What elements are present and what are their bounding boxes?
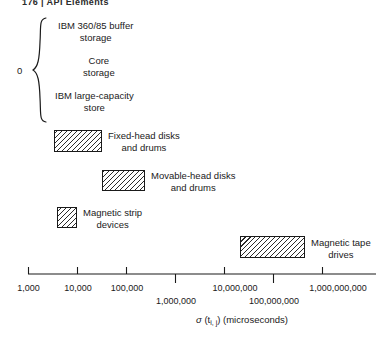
group-label-line1: IBM 360/85 buffer <box>58 20 133 31</box>
bar-label-line2: drives <box>311 249 371 261</box>
grouping-brace-icon <box>32 17 48 123</box>
group-label-core-storage: Core storage <box>83 55 115 79</box>
x-tick-label-100000: 100,000 <box>95 283 159 293</box>
x-tick-label-1000000000: 1,000,000,000 <box>290 283 386 293</box>
bar-magnetic-tape-drives <box>240 236 305 258</box>
x-axis-title: σ (ti, j) (microseconds) <box>196 314 288 326</box>
group-label-line2: storage <box>80 32 112 43</box>
x-tick-label-10000000: 10,000,000 <box>198 283 272 293</box>
bar-label-line1: Magnetic strip <box>83 207 142 218</box>
bar-label-line2: devices <box>83 219 142 231</box>
group-label-line2: store <box>84 102 105 113</box>
group-label-ibm-lcs: IBM large-capacity store <box>55 90 134 114</box>
bar-label-fixed-head-disks: Fixed-head disks and drums <box>108 130 180 154</box>
group-label-line1: Core <box>89 55 110 66</box>
bar-label-movable-head-disks: Movable-head disks and drums <box>151 170 236 194</box>
zero-axis-label: 0 <box>17 65 22 76</box>
bar-movable-head-disks <box>102 170 145 191</box>
bar-label-line2: and drums <box>151 182 236 194</box>
group-label-line1: IBM large-capacity <box>55 90 134 101</box>
x-tick-label-1000000: 1,000,000 <box>142 296 210 306</box>
bar-label-line1: Magnetic tape <box>311 237 371 248</box>
x-tick-label-100000000: 100,000,000 <box>231 296 317 306</box>
bar-label-magnetic-tape-drives: Magnetic tape drives <box>311 237 371 261</box>
bar-fixed-head-disks <box>54 130 102 152</box>
bar-label-magnetic-strip-devices: Magnetic strip devices <box>83 207 142 231</box>
page-header: 176 | API Elements <box>22 0 109 7</box>
x-axis-title-sigma: σ <box>196 314 202 325</box>
group-label-ibm-buffer: IBM 360/85 buffer storage <box>58 20 133 44</box>
bar-label-line2: and drums <box>108 142 180 154</box>
group-label-line2: storage <box>83 67 115 78</box>
bar-label-line1: Movable-head disks <box>151 170 236 181</box>
figure-canvas: 176 | API Elements 0 IBM 360/85 buffer s… <box>0 0 390 340</box>
bar-label-line1: Fixed-head disks <box>108 130 180 141</box>
x-axis-title-tail: ) (microseconds) <box>217 314 288 325</box>
bar-magnetic-strip-devices <box>57 207 77 228</box>
